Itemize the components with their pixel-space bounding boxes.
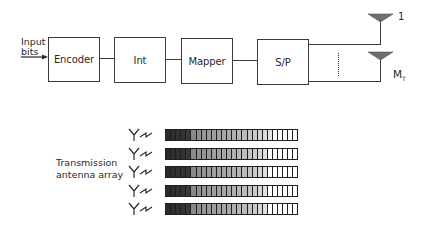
antenna-mt-label-sub: T bbox=[402, 75, 406, 82]
array-antenna-icon bbox=[128, 165, 158, 179]
sp-block: S/P bbox=[257, 39, 309, 85]
array-label-line2: antenna array bbox=[56, 169, 123, 181]
ellipsis-dots bbox=[338, 53, 339, 76]
bar-segment bbox=[293, 186, 297, 196]
connector-int-mapper bbox=[166, 59, 181, 60]
antenna-1-stem bbox=[380, 20, 381, 45]
signal-bar-row-3 bbox=[165, 166, 298, 178]
mapper-label: Mapper bbox=[188, 56, 225, 67]
output-line-1 bbox=[309, 44, 380, 45]
antenna-1-icon bbox=[367, 13, 394, 23]
array-antenna-icon bbox=[128, 128, 158, 142]
antenna-mt-label: MT bbox=[393, 68, 406, 85]
connector-encoder-int bbox=[100, 58, 114, 59]
bar-segment bbox=[293, 149, 297, 159]
signal-bar-row-5 bbox=[165, 203, 298, 215]
output-line-mt bbox=[309, 81, 380, 82]
signal-bar-row-2 bbox=[165, 148, 298, 160]
array-label: Transmission antenna array bbox=[56, 157, 123, 181]
antenna-mt-stem bbox=[380, 58, 381, 82]
bar-segment bbox=[293, 204, 297, 214]
encoder-label: Encoder bbox=[54, 54, 94, 65]
signal-bar-row-1 bbox=[165, 129, 298, 141]
array-label-line1: Transmission bbox=[56, 157, 123, 169]
array-antenna-icon bbox=[128, 202, 158, 216]
interleaver-label: Int bbox=[134, 55, 147, 66]
antenna-1-label: 1 bbox=[398, 11, 404, 23]
bar-segment bbox=[293, 167, 297, 177]
encoder-block: Encoder bbox=[48, 37, 100, 82]
antenna-mt-label-main: M bbox=[393, 68, 402, 80]
interleaver-block: Int bbox=[114, 37, 166, 83]
sp-label: S/P bbox=[275, 57, 290, 68]
signal-bar-row-4 bbox=[165, 185, 298, 197]
antenna-mt-icon bbox=[367, 51, 394, 61]
connector-mapper-sp bbox=[233, 60, 257, 61]
array-antenna-icon bbox=[128, 184, 158, 198]
bar-segment bbox=[293, 130, 297, 140]
array-antenna-icon bbox=[128, 147, 158, 161]
input-arrow-icon bbox=[20, 53, 50, 61]
mapper-block: Mapper bbox=[181, 38, 233, 84]
